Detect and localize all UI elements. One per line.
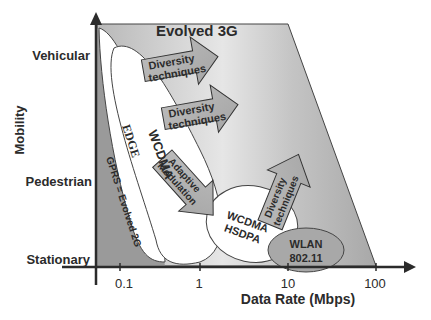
y-tick-stationary: Stationary: [26, 252, 90, 267]
y-tick-pedestrian: Pedestrian: [26, 174, 93, 189]
wlan-label-line2: 802.11: [289, 252, 322, 264]
x-axis-label: Data Rate (Mbps): [241, 291, 355, 307]
x-tick-label-1: 1: [195, 276, 202, 291]
wlan-label-line1: WLAN: [290, 238, 323, 250]
x-tick-label-0.1: 0.1: [115, 276, 133, 291]
x-tick-label-10: 10: [281, 276, 295, 291]
x-tick-label-100: 100: [364, 276, 386, 291]
mobility-vs-data-rate-diagram: Diversity techniques Diversity technique…: [0, 0, 431, 320]
evolved-3g-label: Evolved 3G: [156, 22, 238, 39]
wlan-region: [268, 228, 344, 272]
y-axis-arrowhead: [90, 12, 102, 25]
y-axis-label: Mobility: [12, 105, 27, 155]
y-tick-vehicular: Vehicular: [32, 48, 90, 63]
x-axis-arrowhead: [404, 261, 416, 273]
